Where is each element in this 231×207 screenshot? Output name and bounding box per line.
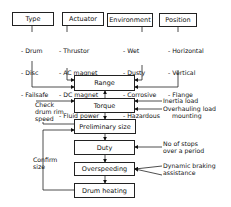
- type-item: - Failsafe: [21, 91, 48, 98]
- range-box: Range: [74, 75, 135, 91]
- torque-box: Torque: [74, 98, 135, 113]
- actuator-item: - Thrustor: [59, 47, 99, 54]
- type-items: - Drum - Disc - Failsafe: [21, 33, 48, 105]
- drum-heating-box: Drum heating: [74, 183, 135, 198]
- position-item: - Horizontal: [168, 47, 204, 54]
- inertia-load-label: Inertia load: [163, 97, 198, 104]
- environment-item: - Corrosive: [123, 91, 160, 98]
- dynamic-braking-label: Dynamic braking assistance: [163, 162, 216, 176]
- confirm-size-label: Confirm size: [33, 156, 57, 170]
- position-box: Position: [159, 13, 197, 27]
- type-item: - Drum: [21, 47, 48, 54]
- actuator-item: - DC magnet: [59, 91, 99, 98]
- environment-box: Environment: [107, 13, 153, 27]
- overhauling-load-label: Overhauling load: [163, 105, 216, 112]
- stops-label: No of stops over a period: [163, 140, 204, 154]
- check-drum-label: Check drum rim speed: [35, 101, 64, 123]
- position-item: - Vertical: [168, 69, 204, 76]
- preliminary-size-box: Preliminary size: [74, 119, 136, 134]
- type-box: Type: [12, 12, 54, 26]
- position-item: mounting: [168, 112, 204, 119]
- type-item: - Disc: [21, 69, 48, 76]
- actuator-box: Actuator: [62, 12, 104, 26]
- duty-box: Duty: [74, 140, 135, 155]
- environment-item: - Wet: [123, 47, 160, 54]
- position-items: - Horizontal - Vertical - Flange mountin…: [168, 33, 204, 127]
- overspeeding-box: Overspeeding: [74, 162, 135, 176]
